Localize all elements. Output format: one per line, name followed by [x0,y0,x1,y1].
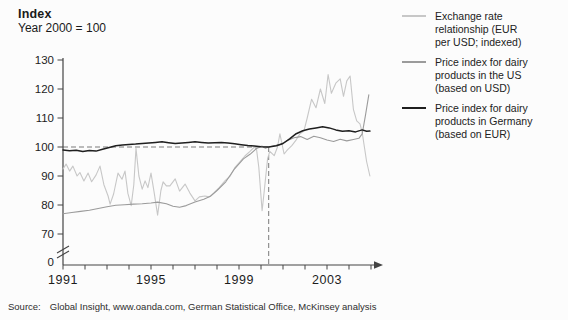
y-tick-label: 80 [41,199,54,211]
source-label: Source: [8,301,41,312]
x-tick-label: 1995 [136,273,166,287]
x-tick-label: 2003 [312,273,342,287]
source-note: Source:Global Insight, www.oanda.com, Ge… [8,301,376,312]
x-tick-label: 1999 [224,273,254,287]
y-tick-label: 110 [36,112,54,124]
source-text: Global Insight, www.oanda.com, German St… [50,301,377,312]
series-line-us-dairy [63,95,369,214]
legend-label-us-dairy: Price index for dairy products in the US… [435,56,528,95]
legend-swatch-exchange-rate [402,15,426,17]
legend-swatch-us-dairy [402,61,426,63]
legend-swatch-germany-dairy [402,107,426,109]
series-line-exchange-rate [63,75,370,216]
legend-item-exchange-rate: Exchange rate relationship (EUR per USD;… [402,10,562,49]
legend-item-germany-dairy: Price index for dairy products in German… [402,102,562,141]
y-origin-label: 0 [48,256,54,268]
y-tick-label: 90 [41,170,54,182]
y-tick-label: 100 [35,141,54,153]
y-tick-label: 120 [35,83,54,95]
y-tick-label: 70 [41,228,54,240]
x-axis-arrow-icon [374,261,383,269]
x-tick-label: 1991 [48,273,78,287]
y-tick-label: 130 [35,54,54,66]
legend: Exchange rate relationship (EUR per USD;… [402,10,562,148]
legend-label-germany-dairy: Price index for dairy products in German… [435,102,532,141]
legend-item-us-dairy: Price index for dairy products in the US… [402,56,562,95]
legend-label-exchange-rate: Exchange rate relationship (EUR per USD;… [435,10,521,49]
